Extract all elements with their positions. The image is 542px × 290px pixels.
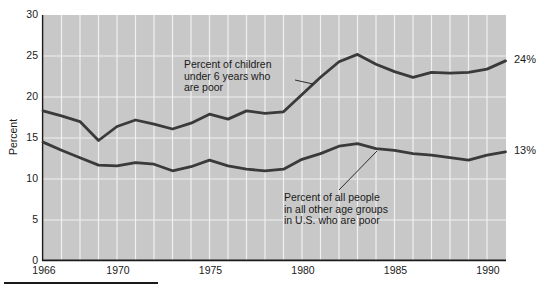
y-tick-label: 20 xyxy=(8,91,38,103)
x-tick-label: 1985 xyxy=(374,265,418,277)
figure-underline xyxy=(4,282,158,284)
poverty-rates-chart: Percent 05101520253019661970197519801985… xyxy=(0,0,542,290)
chart-canvas xyxy=(0,0,542,290)
y-tick-label: 5 xyxy=(8,214,38,226)
y-tick-label: 10 xyxy=(8,173,38,185)
x-tick-label: 1975 xyxy=(189,265,233,277)
annotation-line: are poor xyxy=(184,82,272,94)
x-tick-label: 1980 xyxy=(281,265,325,277)
annotation-others-label: Percent of all peoplein all other age gr… xyxy=(284,192,388,227)
y-tick-label: 15 xyxy=(8,132,38,144)
series-end-label-all-other-age-groups: 13% xyxy=(514,145,536,157)
annotation-children-label: Percent of childrenunder 6 years whoare … xyxy=(184,59,272,94)
y-tick-label: 30 xyxy=(8,9,38,21)
annotation-line: Percent of children xyxy=(184,59,272,71)
y-tick-label: 25 xyxy=(8,50,38,62)
series-end-label-children-under-6: 24% xyxy=(514,54,536,66)
x-tick-label: 1970 xyxy=(96,265,140,277)
annotation-line: Percent of all people xyxy=(284,192,388,204)
annotation-line: in U.S. who are poor xyxy=(284,215,388,227)
x-tick-label: 1990 xyxy=(466,265,510,277)
x-tick-label: 1966 xyxy=(22,265,66,277)
